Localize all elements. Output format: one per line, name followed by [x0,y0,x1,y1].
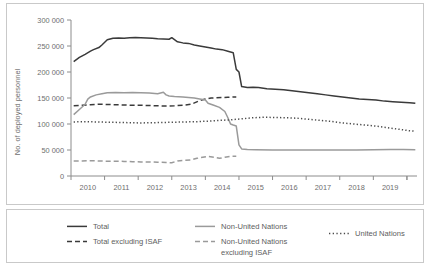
x-tick-label: 2014 [214,183,230,192]
legend-label-excluding-isaf: excluding ISAF [221,248,272,257]
y-tick-label: 300 000 [37,16,64,25]
x-tick-label: 2017 [315,183,331,192]
y-axis-title: No. of deployed personnel [13,69,22,156]
legend-label-non-united-nations: Non-United Nations [221,237,287,246]
y-tick-label: 200 000 [37,68,64,77]
x-tick-label: 2013 [180,183,196,192]
legend-label-non-united-nations: Non-United Nations [221,222,287,231]
x-tick-label: 2019 [382,183,398,192]
x-tick-label: 2011 [113,183,129,192]
y-tick-label: 250 000 [37,42,64,51]
line-chart-svg: 050 000100 000150 000200 000250 000300 0… [7,4,423,204]
y-tick-label: 50 000 [41,146,64,155]
x-tick-label: 2016 [281,183,297,192]
x-tick-label: 2010 [80,183,96,192]
legend-panel: TotalTotal excluding ISAFNon-United Nati… [6,209,424,263]
y-tick-label: 0 [60,172,64,181]
x-tick-label: 2015 [248,183,264,192]
y-tick-label: 100 000 [37,120,64,129]
series-line-united-nations [74,117,416,131]
chart-panel: 050 000100 000150 000200 000250 000300 0… [6,3,424,205]
legend-label-total: Total [93,222,109,231]
x-tick-label: 2018 [348,183,364,192]
y-tick-label: 150 000 [37,94,64,103]
legend-svg: TotalTotal excluding ISAFNon-United Nati… [7,210,423,262]
x-tick-label: 2012 [147,183,163,192]
data-series [74,37,416,162]
series-line-non-united-nations [74,92,416,150]
legend-label-total-excluding-isaf: Total excluding ISAF [93,237,163,246]
series-line-non-united-nations-excluding-isaf [74,156,237,163]
legend-label-united-nations: United Nations [355,229,405,238]
chart-figure: 050 000100 000150 000200 000250 000300 0… [0,0,430,267]
